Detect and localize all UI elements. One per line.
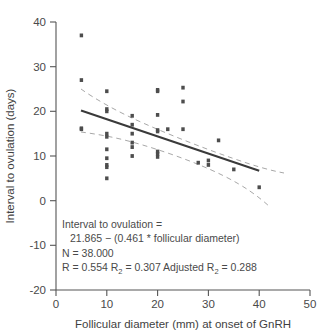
data-point	[105, 135, 108, 139]
annotation-line-3: N = 38.000	[62, 247, 114, 259]
data-point	[166, 127, 169, 131]
data-point	[105, 109, 108, 113]
data-point	[80, 78, 83, 82]
data-point	[207, 159, 210, 163]
data-point	[156, 155, 159, 159]
y-axis	[50, 22, 56, 290]
y-tick-label-neg10: -10	[29, 239, 46, 251]
data-point	[131, 141, 134, 145]
x-tick-label-50: 50	[304, 298, 317, 310]
data-point	[131, 114, 134, 118]
data-point	[197, 161, 200, 165]
y-tick-label-0: 0	[40, 195, 46, 207]
annotation-line-2: 21.865 − (0.461 * follicular diameter)	[70, 232, 240, 244]
data-point	[181, 127, 184, 131]
x-axis-title: Follicular diameter (mm) at onset of GnR…	[75, 318, 291, 330]
data-point	[217, 138, 220, 142]
annotation-line-1: Interval to ovulation =	[62, 218, 162, 230]
annotation-line-4: R = 0.554 R2 = 0.307 Adjusted R2 = 0.288	[62, 261, 257, 276]
y-tick-label-20: 20	[33, 105, 46, 117]
data-point	[105, 156, 108, 160]
chart-canvas: 40 30 20 10 0 -10 -20 0 10 20 30 40 50 F…	[0, 0, 330, 335]
data-point	[105, 89, 108, 93]
x-axis	[56, 290, 310, 296]
x-tick-label-10: 10	[100, 298, 113, 310]
scatter-plot-figure: 40 30 20 10 0 -10 -20 0 10 20 30 40 50 F…	[0, 0, 330, 335]
data-point	[181, 100, 184, 104]
x-tick-label-30: 30	[202, 298, 215, 310]
data-point	[181, 86, 184, 90]
data-point	[105, 165, 108, 169]
data-point	[131, 132, 134, 136]
data-point	[156, 89, 159, 93]
annotation-text-block: Interval to ovulation = 21.865 − (0.461 …	[62, 218, 257, 276]
data-points-group	[80, 34, 261, 190]
data-point	[131, 145, 134, 149]
data-point	[131, 123, 134, 127]
data-point	[156, 113, 159, 117]
data-point	[258, 185, 261, 189]
data-point	[156, 130, 159, 134]
x-tick-label-40: 40	[253, 298, 266, 310]
y-tick-label-10: 10	[33, 150, 46, 162]
annotation-r-value: R = 0.554 R	[62, 261, 119, 273]
annotation-adj-r2-value: = 0.288	[219, 261, 257, 273]
data-point	[232, 168, 235, 172]
data-point	[207, 163, 210, 167]
y-axis-title: Interval to ovulation (days)	[4, 88, 16, 223]
y-tick-label-neg20: -20	[29, 284, 46, 296]
data-point	[105, 176, 108, 180]
regression-line	[81, 111, 259, 171]
data-point	[80, 126, 83, 130]
data-point	[105, 147, 108, 151]
x-tick-label-20: 20	[151, 298, 164, 310]
data-point	[131, 154, 134, 158]
y-tick-label-40: 40	[33, 16, 46, 28]
annotation-r2-value: = 0.307 Adjusted R	[123, 261, 215, 273]
y-tick-label-30: 30	[33, 61, 46, 73]
x-tick-label-0: 0	[53, 298, 59, 310]
data-point	[80, 34, 83, 38]
